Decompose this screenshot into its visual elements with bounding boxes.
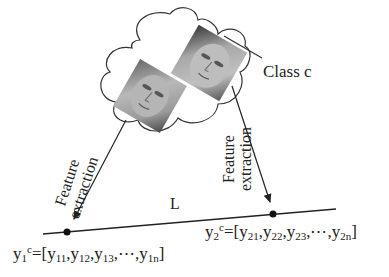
fe2-line2: extraction — [237, 114, 254, 204]
vec2-item: y — [239, 222, 248, 241]
vector-2-equation: y2c=[y21,y22,y23,⋯,y2n] — [205, 221, 357, 242]
vec1-item-sub: 11 — [56, 252, 67, 264]
vec1-item-sub: 12 — [79, 252, 90, 264]
fe2-line1: Feature — [220, 114, 237, 204]
vec2-item-sub: 2n — [340, 230, 351, 242]
vec1-item: y — [139, 244, 148, 263]
class-label: Class c — [263, 62, 312, 82]
vec1-item-sub: 1n — [148, 252, 159, 264]
vec1-item: y — [47, 244, 56, 263]
vec2-ellipsis: ⋯ — [310, 222, 327, 241]
vec1-eq: =[ — [32, 244, 47, 263]
line-label: L — [170, 195, 180, 213]
vec1-item: y — [70, 244, 79, 263]
feature-extraction-label-2: Feature extraction — [220, 114, 254, 204]
vector-1-equation: y1c=[y11,y12,y13,⋯,y1n] — [13, 243, 164, 264]
vec1-name: y — [13, 244, 22, 263]
vec1-close: ] — [159, 244, 165, 263]
vec2-item-sub: 22 — [271, 230, 282, 242]
vec2-item: y — [287, 222, 296, 241]
vec2-item: y — [332, 222, 341, 241]
point-2 — [270, 211, 277, 218]
vec2-item-sub: 23 — [295, 230, 306, 242]
vec2-eq: =[ — [224, 222, 239, 241]
vec1-item-sub: 13 — [103, 252, 114, 264]
vec2-name: y — [205, 222, 214, 241]
vec2-item-sub: 21 — [248, 230, 259, 242]
vec1-item: y — [94, 244, 103, 263]
vec1-ellipsis: ⋯ — [118, 244, 135, 263]
vec2-close: ] — [351, 222, 357, 241]
